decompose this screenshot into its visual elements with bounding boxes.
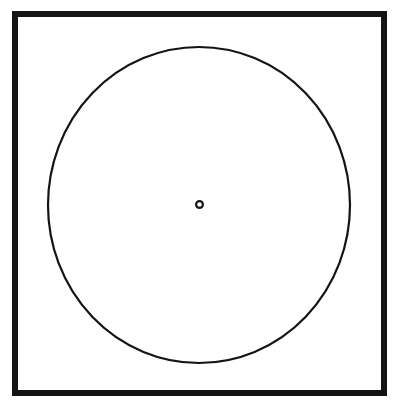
figure-root: Square frame enclosing a circle with a c…	[0, 0, 398, 407]
canvas-background	[0, 0, 398, 407]
line-drawing-canvas	[0, 0, 398, 407]
